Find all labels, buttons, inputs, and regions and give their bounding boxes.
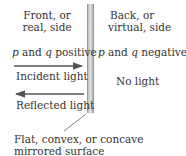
incident-light-label: Incident light — [16, 70, 88, 82]
and-text: and — [108, 46, 128, 58]
positive-text: positive — [55, 46, 97, 58]
reflected-light-label: Reflected light — [16, 99, 94, 111]
surface-label-line1: Flat, convex, or concave — [14, 133, 143, 145]
back-side-label: Back, or virtual, side — [108, 9, 171, 33]
no-light-label: No light — [116, 75, 159, 87]
back-label-line2: virtual, side — [108, 21, 171, 33]
q-symbol: q — [45, 46, 52, 58]
negative-text: negative — [141, 46, 186, 58]
front-label-line2: real, side — [14, 21, 80, 33]
front-side-label: Front, or real, side — [14, 9, 80, 33]
back-label-line1: Back, or — [108, 9, 171, 21]
and-text: and — [22, 46, 42, 58]
front-sign-convention: p and q positive — [12, 46, 97, 58]
surface-label: Flat, convex, or concave mirrored surfac… — [14, 133, 143, 156]
q-symbol: q — [131, 46, 138, 58]
p-symbol: p — [12, 46, 19, 58]
leader-line — [64, 114, 86, 131]
surface-label-line2: mirrored surface — [14, 145, 143, 156]
p-symbol: p — [98, 46, 105, 58]
front-label-line1: Front, or — [14, 9, 80, 21]
back-sign-convention: p and q negative — [98, 46, 186, 58]
